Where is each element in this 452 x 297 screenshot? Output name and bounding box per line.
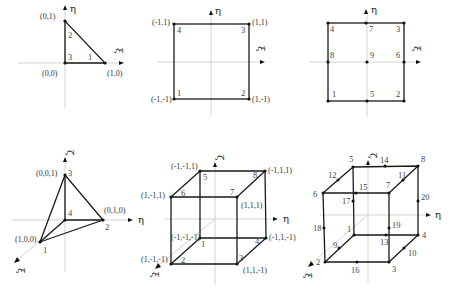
node-17 [352, 200, 355, 203]
node-1 [326, 99, 329, 102]
node-4 [264, 236, 267, 239]
coord-label-n2: (1,-1) [252, 95, 270, 104]
coord-label-n2: (0,1,0) [104, 206, 126, 215]
node-12 [337, 179, 340, 182]
node-7 [388, 192, 391, 195]
coord-label-n2: (0,1) [40, 12, 56, 21]
node-3 [63, 173, 66, 176]
node-number: 20 [421, 192, 430, 202]
node-15 [355, 192, 358, 195]
node-7 [364, 21, 367, 24]
node-number: 4 [422, 230, 427, 240]
node-number: 1 [332, 89, 336, 99]
xi-label: ξ [303, 273, 314, 279]
tetrahedron-element-panel: η ζ ξ (1,0,0) (0,1,0) (0,0,1) 1 2 3 4 [12, 150, 144, 274]
coord-label-n6: (1,-1,1) [141, 191, 165, 200]
node-4 [63, 218, 66, 221]
hex-front-face [323, 193, 389, 262]
eta-label: η [70, 3, 76, 14]
coord-label-n1: (-1,-1) [151, 95, 172, 104]
eta-arrow-icon [426, 213, 431, 217]
zeta-label: ζ [65, 150, 76, 156]
node-number: 4 [177, 25, 182, 35]
node-19 [388, 227, 391, 230]
quad4-element-panel: η ξ (-1,-1) (1,-1) (1,1) (-1,1) 1 2 3 4 [151, 5, 270, 115]
node-3 [402, 21, 405, 24]
node-number: 6 [313, 189, 317, 199]
zeta-label: ζ [368, 153, 379, 159]
node-number: 9 [370, 50, 374, 60]
coord-label-n4: (-1,1) [152, 18, 170, 27]
coord-label-n3: (0,0,1) [36, 169, 58, 178]
node-number: 15 [359, 182, 368, 192]
coord-label-n3: (0,0) [42, 69, 58, 78]
coord-label-n7: (1,1,1) [241, 201, 263, 210]
node-6 [322, 192, 325, 195]
node-3 [247, 22, 250, 25]
zeta-arrow-icon [63, 157, 67, 162]
coord-label-n1: (-1,-1,-1) [171, 233, 201, 242]
node-number: 3 [68, 52, 72, 62]
node-2 [247, 97, 250, 100]
eta-arrow-icon [364, 9, 368, 14]
node-number: 3 [392, 264, 396, 274]
node-7 [235, 195, 238, 198]
node-20 [417, 200, 420, 203]
node-number: 10 [408, 248, 417, 258]
finite-element-shapes-diagram: η ξ (0,1) (0,0) (1,0) 1 2 3 η ξ (-1,-1) … [0, 0, 452, 297]
node-3 [63, 61, 66, 64]
node-number: 1 [43, 245, 47, 255]
node-number: 9 [333, 240, 337, 250]
node-number: 14 [380, 155, 389, 165]
node-number: 3 [396, 24, 400, 34]
hex-back-face [353, 166, 418, 235]
xi-arrow-icon [260, 60, 265, 64]
node-1 [38, 240, 41, 243]
hex-edge [237, 171, 265, 197]
node-10 [403, 247, 406, 250]
triangle-element-panel: η ξ (0,1) (0,0) (1,0) 1 2 3 [18, 3, 125, 108]
node-number: 3 [68, 168, 72, 178]
xi-arrow-icon [416, 60, 421, 64]
node-3 [388, 261, 391, 264]
node-number: 13 [380, 237, 389, 247]
node-5 [365, 99, 368, 102]
node-number: 3 [241, 25, 245, 35]
node-8 [326, 60, 329, 63]
xi-label: ξ [150, 272, 161, 278]
eta-arrow-icon [128, 218, 133, 222]
node-number: 17 [342, 196, 351, 206]
node-number: 7 [230, 187, 234, 197]
xi-label: ξ [412, 46, 423, 52]
node-number: 1 [88, 52, 92, 62]
zeta-arrow-icon [366, 160, 370, 165]
node-number: 19 [392, 220, 401, 230]
node-number: 16 [351, 265, 360, 275]
node-number: 2 [105, 222, 109, 232]
node-16 [356, 261, 359, 264]
zeta-label: ζ [215, 155, 226, 161]
hex-edge [171, 171, 200, 197]
coord-label-n3: (1,1,-1) [243, 266, 267, 275]
node-number: 6 [181, 188, 185, 198]
hex20-element-panel: η ζ ξ 1 2 3 4 5 6 7 [303, 153, 441, 282]
node-number: 2 [181, 255, 185, 265]
eta-label: η [215, 5, 221, 16]
node-1 [353, 234, 356, 237]
coord-label-n8: (-1,1,1) [268, 166, 292, 175]
hex8-element-panel: η ζ ξ (-1,-1,-1) (1,-1,-1) (1,1,-1) (-1,… [141, 155, 296, 285]
node-number: 2 [68, 30, 72, 40]
eta-label: η [138, 214, 144, 225]
node-number: 2 [396, 89, 400, 99]
node-number: 8 [253, 170, 257, 180]
node-2 [402, 99, 405, 102]
node-1 [172, 97, 175, 100]
node-number: 11 [398, 170, 406, 180]
node-number: 2 [316, 257, 320, 267]
quad-outline [174, 24, 249, 99]
node-2 [63, 19, 66, 22]
coord-label-n3: (1,1) [252, 18, 268, 27]
node-1 [103, 61, 106, 64]
coord-label-n2: (1,-1,-1) [141, 255, 168, 264]
node-number: 1 [347, 224, 351, 234]
